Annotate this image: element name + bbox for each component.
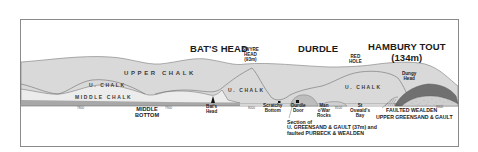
scratchy-line-2: Bottom	[263, 109, 282, 114]
label-hambury-tout: HAMBURY TOUT (134m)	[368, 42, 446, 62]
tick-2: 7900	[165, 107, 172, 110]
section-line-3: faulted PURBECK & WEALDEN	[287, 131, 377, 136]
note-upper-greensand: UPPER GREENSAND & GAULT	[376, 115, 453, 120]
label-durdle: DURDLE	[298, 44, 338, 54]
dungy-line-2: Head	[402, 77, 416, 82]
st-oswalds-line-3: Bay	[350, 114, 370, 119]
note-section: Section of U. GREENSAND & GAULT (37m) an…	[287, 120, 377, 136]
label-u-chalk-right: U. CHALK	[345, 85, 382, 90]
label-bats-head-small: Bat's Head	[206, 105, 217, 115]
label-st-oswalds: St Oswald's Bay	[350, 104, 370, 118]
bats-small-line-2: Head	[206, 110, 217, 115]
label-u-chalk-left: U. CHALK	[89, 83, 126, 88]
durdle-door-line-2: Door	[291, 109, 306, 114]
cross-section-diagram: BAT'S HEAD SWYRE HEAD (93m) DURDLE RED H…	[0, 0, 478, 152]
label-middle-chalk: MIDDLE CHALK	[75, 95, 132, 100]
tick-1: 7800	[77, 107, 84, 110]
label-u-chalk-mid: U. CHALK	[228, 88, 265, 93]
label-middle-bottom: MIDDLE BOTTOM	[135, 107, 159, 118]
middle-bottom-line-2: BOTTOM	[135, 113, 159, 119]
label-dungy-head: Dungy Head	[402, 72, 416, 82]
man-o-war-line-3: Rocks	[317, 114, 331, 119]
label-scratchy-bottom: Scratchy Bottom	[263, 104, 282, 114]
note-faulted-wealden: FAULTED WEALDEN	[386, 108, 437, 113]
label-durdle-door: Durdle Door	[291, 104, 306, 114]
tick-4: 8100	[335, 107, 342, 110]
hambury-line-1: HAMBURY TOUT	[368, 42, 446, 52]
label-swyre-head: SWYRE HEAD (93m)	[242, 48, 259, 62]
label-upper-chalk: UPPER CHALK	[124, 70, 196, 76]
swyre-line-3: (93m)	[242, 58, 259, 63]
label-man-o-war: Man o'War Rocks	[317, 104, 331, 118]
tick-3: 8000	[248, 107, 255, 110]
red-hole-line-2: HOLE	[349, 60, 362, 65]
label-red-hole: RED HOLE	[349, 55, 362, 65]
label-bats-head: BAT'S HEAD	[190, 44, 248, 54]
hambury-line-2: (134m)	[368, 53, 446, 63]
